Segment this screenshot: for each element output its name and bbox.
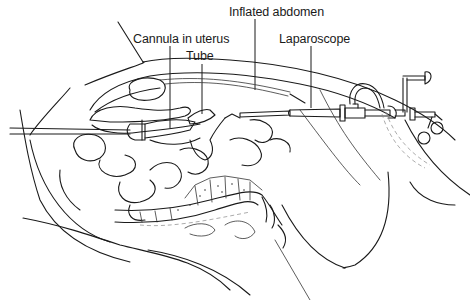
anatomy-illustration	[0, 0, 470, 300]
laparoscopy-diagram: Inflated abdomen Cannula in uterus Tube …	[0, 0, 470, 300]
label-cannula-in-uterus: Cannula in uterus	[133, 32, 229, 46]
label-tube: Tube	[186, 49, 214, 63]
label-inflated-abdomen: Inflated abdomen	[229, 5, 324, 19]
label-laparoscope: Laparoscope	[279, 32, 350, 46]
